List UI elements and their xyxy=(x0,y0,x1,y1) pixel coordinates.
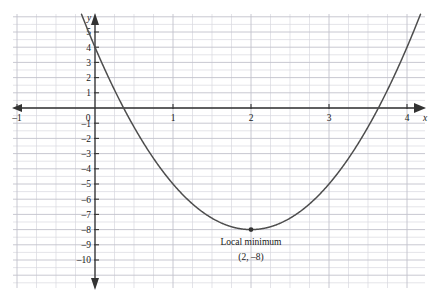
chart-figure: –101234 54321–1–2–3–4–5–6–7–8–9–10 x y L… xyxy=(0,0,434,306)
local-minimum-label: Local minimum xyxy=(221,237,283,247)
x-tick-label: 2 xyxy=(249,113,254,123)
y-tick-label: 1 xyxy=(86,88,91,98)
y-tick-label: 2 xyxy=(86,73,91,83)
y-tick-label: 3 xyxy=(86,58,91,68)
vertex-point-marker xyxy=(249,227,254,232)
y-tick-label: –1 xyxy=(81,119,92,129)
x-tick-label: –1 xyxy=(11,113,22,123)
x-tick-label: 3 xyxy=(327,113,332,123)
x-axis-label: x xyxy=(422,113,428,123)
y-tick-label: –10 xyxy=(76,255,92,265)
y-axis-label: y xyxy=(86,13,92,23)
y-tick-label: –2 xyxy=(81,134,92,144)
y-tick-label: –8 xyxy=(81,225,92,235)
x-tick-label: 1 xyxy=(171,113,176,123)
local-minimum-coords: (2, –8) xyxy=(238,252,263,263)
y-tick-label: –6 xyxy=(81,195,92,205)
y-tick-label: –9 xyxy=(81,240,92,250)
y-tick-label: –4 xyxy=(81,164,92,174)
x-tick-label: 4 xyxy=(405,113,410,123)
y-tick-label: –5 xyxy=(81,179,92,189)
y-tick-label: –7 xyxy=(81,210,92,220)
parabola-chart: –101234 54321–1–2–3–4–5–6–7–8–9–10 x y L… xyxy=(0,0,434,306)
y-tick-label: –3 xyxy=(81,149,92,159)
data-point-markers xyxy=(249,227,254,232)
y-tick-label: 4 xyxy=(86,43,91,53)
